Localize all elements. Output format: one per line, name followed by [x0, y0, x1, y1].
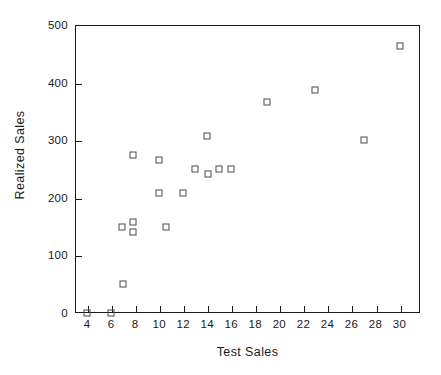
data-point [120, 281, 127, 288]
data-point [108, 310, 115, 317]
x-axis-tick-label: 18 [249, 318, 262, 330]
data-point [216, 166, 223, 173]
x-axis-tick-label: 14 [201, 318, 214, 330]
data-point [163, 223, 170, 230]
data-point [129, 228, 136, 235]
y-axis-tick-label: 0 [61, 307, 68, 319]
y-axis-tick-label: 300 [48, 134, 68, 146]
data-point [129, 218, 136, 225]
x-axis-tick-labels: 4681012141618202224262830 [75, 318, 420, 336]
plot-data-area [75, 25, 420, 313]
x-axis-tick-label: 24 [321, 318, 334, 330]
data-point [312, 86, 319, 93]
data-point [180, 190, 187, 197]
y-axis-tick-label: 200 [48, 192, 68, 204]
x-axis-tick-label: 8 [132, 318, 139, 330]
x-axis-title: Test Sales [75, 345, 420, 359]
data-point [204, 133, 211, 140]
x-axis-tick-label: 10 [152, 318, 165, 330]
data-point [228, 166, 235, 173]
x-axis-tick-label: 26 [345, 318, 358, 330]
data-point [205, 170, 212, 177]
x-axis-tick-label: 20 [273, 318, 286, 330]
x-axis-tick-label: 6 [108, 318, 115, 330]
y-axis-tick-label: 400 [48, 77, 68, 89]
scatter-plot-figure: 0100200300400500 46810121416182022242628… [0, 0, 441, 375]
data-point [118, 223, 125, 230]
x-axis-tick-label: 22 [297, 318, 310, 330]
x-axis-tick-label: 16 [225, 318, 238, 330]
data-point [84, 310, 91, 317]
x-axis-tick-label: 30 [393, 318, 406, 330]
data-point [360, 137, 367, 144]
x-axis-tick-label: 12 [176, 318, 189, 330]
y-axis-title: Realized Sales [13, 75, 27, 235]
y-axis-tick-labels: 0100200300400500 [22, 25, 68, 313]
data-point [156, 157, 163, 164]
y-axis-tick-label: 500 [48, 19, 68, 31]
x-axis-tick-label: 4 [84, 318, 91, 330]
y-axis-tick-label: 100 [48, 249, 68, 261]
data-point [192, 166, 199, 173]
data-point [396, 43, 403, 50]
x-axis-tick-label: 28 [369, 318, 382, 330]
data-point [129, 151, 136, 158]
data-point [156, 190, 163, 197]
data-point [264, 99, 271, 106]
